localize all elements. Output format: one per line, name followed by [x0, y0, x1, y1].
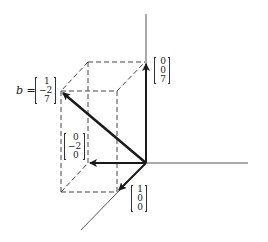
vector-b-name: b	[16, 84, 23, 97]
z-component-matrix: 0 0 7	[154, 57, 170, 84]
matrix-entry: 0	[135, 203, 143, 212]
matrix-entry: 0	[71, 151, 79, 160]
vector-b-matrix: 1 −2 7	[35, 77, 56, 104]
vector-b-label: b =	[16, 84, 36, 97]
y-component-matrix: 0 −2 0	[64, 133, 85, 160]
matrix-entry: 7	[42, 95, 50, 104]
matrix-entry: 7	[158, 75, 166, 84]
x-component-matrix: 1 0 0	[131, 185, 147, 212]
